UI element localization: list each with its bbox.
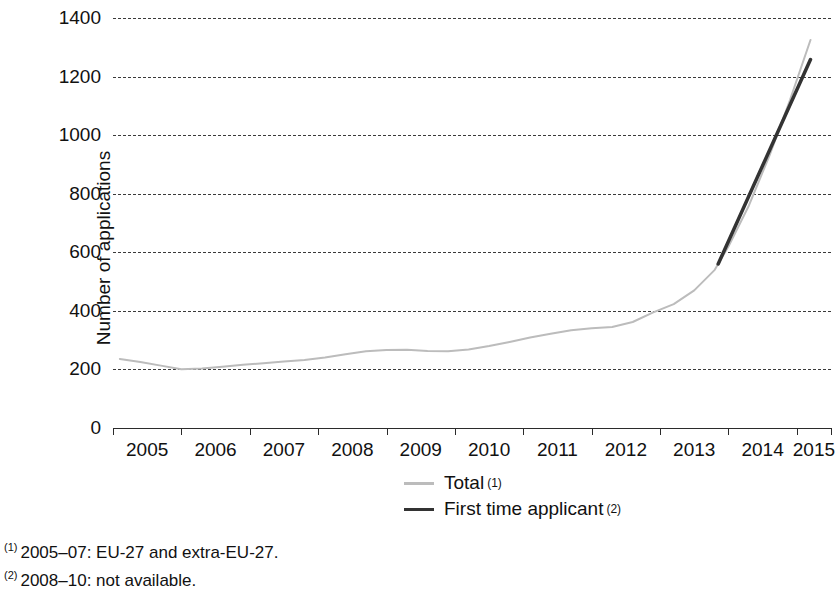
x-tick-label-2012: 2012 [591, 439, 661, 461]
footnote-1: (1)2005–07: EU-27 and extra-EU-27. [4, 536, 278, 564]
x-axis-cap-left [113, 428, 114, 435]
x-tick-label-2010: 2010 [454, 439, 524, 461]
x-tick-label-2005: 2005 [112, 439, 182, 461]
y-tick-label-400: 400 [41, 300, 101, 322]
y-tick-label-200: 200 [41, 358, 101, 380]
x-tick-2010 [455, 428, 456, 435]
y-tick-label-800: 800 [41, 183, 101, 205]
data-series-layer [113, 18, 831, 428]
x-tick-2008 [318, 428, 319, 435]
series-line-total [120, 40, 811, 369]
x-tick-2014 [728, 428, 729, 435]
legend-label-total: Total [444, 472, 484, 494]
x-tick-2009 [387, 428, 388, 435]
y-tick-label-600: 600 [41, 241, 101, 263]
y-tick-label-1200: 1200 [41, 66, 101, 88]
legend-label-first-time-applicant: First time applicant [444, 498, 603, 520]
x-tick-label-2006: 2006 [181, 439, 251, 461]
x-tick-label-2007: 2007 [249, 439, 319, 461]
legend-item-first-time-applicant: First time applicant (2) [404, 496, 621, 522]
x-tick-label-2013: 2013 [659, 439, 729, 461]
x-tick-label-2009: 2009 [386, 439, 456, 461]
chart-legend: Total (1) First time applicant (2) [404, 470, 621, 522]
y-tick-label-1000: 1000 [41, 124, 101, 146]
x-axis-cap-right [831, 428, 832, 435]
legend-item-total: Total (1) [404, 470, 621, 496]
legend-footnote-ref-total: (1) [487, 476, 502, 490]
x-tick-2011 [523, 428, 524, 435]
x-tick-2015 [797, 428, 798, 435]
x-axis-line [113, 428, 831, 429]
x-tick-label-2008: 2008 [317, 439, 387, 461]
plot-area: Number of applications 02004006008001000… [113, 18, 831, 428]
footnote-1-marker: (1) [4, 541, 17, 553]
legend-swatch-total-icon [404, 482, 434, 485]
footnote-2-text: 2008–10: not available. [20, 570, 196, 589]
x-tick-label-2011: 2011 [522, 439, 592, 461]
footnotes-block: (1)2005–07: EU-27 and extra-EU-27. (2)20… [4, 536, 278, 590]
footnote-2-marker: (2) [4, 569, 17, 581]
footnote-1-text: 2005–07: EU-27 and extra-EU-27. [20, 543, 278, 562]
footnote-2: (2)2008–10: not available. [4, 564, 278, 590]
legend-swatch-first-time-icon [404, 508, 434, 511]
y-tick-label-0: 0 [41, 417, 101, 439]
x-tick-label-2015: 2015 [779, 439, 840, 461]
series-line-first-time [718, 60, 810, 264]
legend-footnote-ref-first-time: (2) [606, 502, 621, 516]
x-tick-2007 [250, 428, 251, 435]
y-tick-label-1400: 1400 [41, 7, 101, 29]
x-tick-2006 [181, 428, 182, 435]
x-tick-2013 [660, 428, 661, 435]
x-tick-2012 [592, 428, 593, 435]
